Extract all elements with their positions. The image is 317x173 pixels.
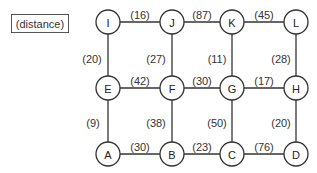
node-K: K (220, 10, 244, 34)
node-label: K (228, 17, 236, 29)
edge-weight-label: (17) (254, 75, 274, 87)
edge-weight-label: (38) (146, 117, 166, 129)
edge-weight-label: (16) (130, 9, 150, 21)
edge-weight-label: (27) (146, 53, 166, 65)
node-label: D (292, 149, 300, 161)
node-label: F (169, 83, 176, 95)
node-label: L (293, 17, 299, 29)
edge-weight-label: (20) (82, 53, 102, 65)
node-D: D (284, 142, 308, 166)
edge-weight-label: (76) (254, 141, 274, 153)
edge-weight-label: (30) (130, 141, 150, 153)
node-J: J (160, 10, 184, 34)
node-H: H (284, 76, 308, 100)
node-L: L (284, 10, 308, 34)
edge-weight-label: (20) (271, 117, 291, 129)
edge-weight-label: (42) (130, 75, 150, 87)
node-label: G (228, 83, 237, 95)
edge-weight-label: (45) (254, 9, 274, 21)
edges-layer (108, 22, 296, 154)
node-A: A (96, 142, 120, 166)
graph-diagram: (16)(87)(45)(20)(27)(11)(28)(42)(30)(17)… (0, 0, 317, 173)
node-F: F (160, 76, 184, 100)
node-label: E (104, 83, 111, 95)
edge-weight-label: (11) (208, 53, 227, 65)
node-label: H (292, 83, 300, 95)
edge-weight-label: (28) (271, 53, 291, 65)
node-G: G (220, 76, 244, 100)
node-B: B (160, 142, 184, 166)
node-E: E (96, 76, 120, 100)
node-label: I (106, 17, 109, 29)
node-label: C (228, 149, 236, 161)
edge-weight-label: (50) (207, 117, 227, 129)
edge-weight-label: (87) (192, 9, 212, 21)
edge-weight-label: (30) (192, 75, 212, 87)
node-label: B (168, 149, 175, 161)
edge-weight-label: (23) (192, 141, 212, 153)
edge-weight-label: (9) (86, 117, 99, 129)
node-label: J (169, 17, 175, 29)
node-C: C (220, 142, 244, 166)
node-label: A (104, 149, 112, 161)
node-I: I (96, 10, 120, 34)
